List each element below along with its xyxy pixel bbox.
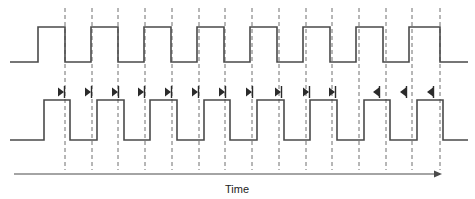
- time-axis-group: [14, 171, 442, 178]
- edge-markers-group: [58, 86, 434, 98]
- waveform-clock-upper: [10, 27, 468, 62]
- waveform-clock-lower: [10, 100, 468, 140]
- marker-triangle-left: [373, 88, 379, 97]
- edge-marker-left: [427, 86, 434, 98]
- marker-triangle-right: [192, 88, 198, 97]
- marker-triangle-right: [138, 88, 144, 97]
- edge-marker-right: [138, 86, 145, 98]
- edge-marker-right: [165, 86, 172, 98]
- marker-triangle-left: [427, 88, 433, 97]
- time-axis-arrowhead: [434, 171, 442, 178]
- marker-triangle-right: [85, 88, 91, 97]
- marker-triangle-right: [58, 88, 64, 97]
- marker-triangle-right: [165, 88, 171, 97]
- marker-triangle-right: [219, 88, 225, 97]
- edge-marker-right: [85, 86, 92, 98]
- edge-marker-right: [275, 86, 282, 98]
- timing-diagram-figure: Time: [0, 0, 475, 199]
- marker-triangle-right: [112, 88, 118, 97]
- marker-triangle-right: [275, 88, 281, 97]
- time-axis-label: Time: [225, 183, 249, 195]
- edge-marker-left: [400, 86, 407, 98]
- waveforms-group: [10, 27, 468, 140]
- edge-marker-left: [373, 86, 380, 98]
- marker-triangle-left: [400, 88, 406, 97]
- marker-triangle-right: [246, 88, 252, 97]
- timing-diagram-canvas: Time: [0, 0, 475, 199]
- edge-marker-right: [192, 86, 199, 98]
- edge-marker-right: [58, 86, 65, 98]
